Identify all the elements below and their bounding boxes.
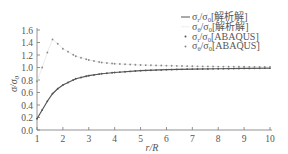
data-point bbox=[191, 68, 193, 70]
data-point bbox=[145, 64, 147, 66]
data-point bbox=[67, 51, 69, 53]
data-point bbox=[223, 68, 225, 70]
y-tick-label: 0.6 bbox=[21, 88, 33, 98]
y-tick-label: 0.8 bbox=[21, 76, 33, 86]
data-point bbox=[202, 68, 204, 70]
data-point bbox=[269, 66, 271, 68]
data-point bbox=[254, 66, 256, 68]
y-tick-label: 1.2 bbox=[21, 51, 33, 61]
data-point bbox=[243, 66, 245, 68]
data-point bbox=[41, 67, 43, 69]
data-point bbox=[52, 38, 54, 40]
data-point bbox=[264, 66, 266, 68]
data-point bbox=[228, 66, 230, 68]
data-point bbox=[57, 88, 59, 90]
y-tick-label: 1.0 bbox=[21, 63, 33, 73]
data-point bbox=[181, 65, 183, 67]
data-point bbox=[46, 100, 48, 102]
data-point bbox=[191, 65, 193, 67]
stress-ratio-chart: 0.00.20.40.60.81.01.21.41.6 12345678910 … bbox=[0, 0, 288, 154]
data-point bbox=[150, 69, 152, 71]
y-axis-title: σ/σ0 bbox=[8, 75, 21, 92]
data-point bbox=[171, 69, 173, 71]
data-point bbox=[98, 73, 100, 75]
data-point bbox=[62, 48, 64, 50]
data-point bbox=[75, 78, 77, 80]
data-point bbox=[228, 68, 230, 70]
x-tick-label: 9 bbox=[242, 134, 247, 144]
x-tick-label: 2 bbox=[61, 134, 66, 144]
data-point bbox=[46, 52, 48, 54]
data-point bbox=[238, 68, 240, 70]
x-tick-label: 7 bbox=[190, 134, 195, 144]
data-point bbox=[72, 54, 74, 56]
data-point bbox=[85, 75, 87, 77]
data-point bbox=[114, 72, 116, 74]
y-tick-label: 1.4 bbox=[21, 38, 33, 48]
data-point bbox=[155, 64, 157, 66]
data-point bbox=[62, 84, 64, 86]
data-point bbox=[223, 66, 225, 68]
data-point bbox=[134, 70, 136, 72]
data-point bbox=[248, 66, 250, 68]
x-tick-label: 10 bbox=[265, 134, 275, 144]
data-point bbox=[166, 69, 168, 71]
data-point bbox=[101, 73, 103, 75]
data-point bbox=[93, 74, 95, 76]
data-point bbox=[140, 70, 142, 72]
data-point bbox=[41, 109, 43, 111]
data-point bbox=[217, 68, 219, 70]
data-point bbox=[36, 118, 38, 120]
data-point bbox=[114, 63, 116, 65]
legend-item-label: σθ/σ0[ABAQUS] bbox=[192, 40, 260, 52]
data-point bbox=[171, 65, 173, 67]
data-point bbox=[57, 43, 59, 45]
legend-dot-icon bbox=[185, 45, 187, 47]
y-tick-label: 0.0 bbox=[21, 126, 33, 136]
data-point bbox=[106, 72, 108, 74]
data-point bbox=[140, 64, 142, 66]
data-point bbox=[155, 69, 157, 71]
x-tick-label: 4 bbox=[112, 134, 117, 144]
data-point bbox=[207, 68, 209, 70]
data-point bbox=[197, 65, 199, 67]
data-point bbox=[80, 77, 82, 79]
data-point bbox=[93, 60, 95, 62]
data-point bbox=[176, 65, 178, 67]
data-point bbox=[119, 63, 121, 65]
data-point bbox=[85, 58, 87, 60]
x-axis-title: r/R bbox=[146, 142, 159, 153]
y-tick-label: 1.6 bbox=[21, 26, 33, 36]
x-tick-label: 6 bbox=[164, 134, 169, 144]
data-point bbox=[186, 68, 188, 70]
data-point bbox=[160, 69, 162, 71]
data-point bbox=[67, 82, 69, 84]
data-point bbox=[111, 72, 113, 74]
data-point bbox=[197, 68, 199, 70]
x-tick-label: 5 bbox=[138, 134, 143, 144]
legend: σr/σ0[解析解]σθ/σ0[解析解]σr/σ0[ABAQUS]σθ/σ0[A… bbox=[181, 10, 260, 52]
data-point bbox=[88, 75, 90, 77]
data-point bbox=[160, 65, 162, 67]
data-point bbox=[129, 64, 131, 66]
data-point bbox=[176, 69, 178, 71]
data-point bbox=[217, 66, 219, 68]
data-point bbox=[207, 66, 209, 68]
data-point bbox=[202, 65, 204, 67]
data-point bbox=[124, 71, 126, 73]
data-point bbox=[36, 80, 38, 82]
series-line-0 bbox=[37, 68, 270, 119]
data-point bbox=[233, 68, 235, 70]
y-tick-label: 0.4 bbox=[21, 101, 33, 111]
data-point bbox=[186, 65, 188, 67]
x-tick-label: 3 bbox=[86, 134, 91, 144]
data-point bbox=[150, 64, 152, 66]
data-point bbox=[124, 63, 126, 65]
x-tick-label: 8 bbox=[216, 134, 221, 144]
data-point bbox=[111, 63, 113, 65]
data-point bbox=[248, 67, 250, 69]
data-point bbox=[119, 71, 121, 73]
data-point bbox=[80, 57, 82, 59]
data-point bbox=[106, 62, 108, 64]
series-markers-2 bbox=[36, 67, 271, 119]
